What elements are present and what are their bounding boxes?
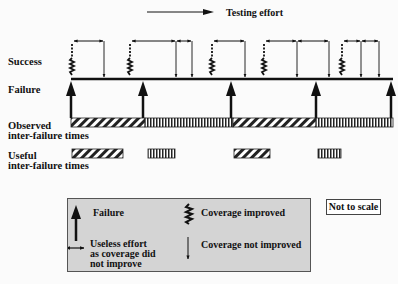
not-to-scale-note: Not to scale [326, 199, 381, 215]
coverage-improved-icon [340, 58, 344, 75]
observed-inter-failure-bar [233, 118, 316, 127]
failure-arrow-icon [386, 81, 396, 96]
observed-row-label-2: inter-failure times [8, 131, 89, 141]
testing-effort-arrow-icon [147, 9, 214, 15]
useful-inter-failure-bar [72, 149, 123, 158]
failure-arrow-icon [138, 81, 148, 96]
coverage-improved-icon [128, 58, 132, 75]
failure-arrow-icon [311, 81, 321, 96]
useful-row-label-2: inter-failure times [8, 161, 89, 171]
coverage-improved-icon [186, 204, 192, 224]
legend-coverage-not-improved-label: Coverage not improved [201, 240, 301, 250]
failure-arrow-icon [66, 81, 76, 96]
useful-inter-failure-bar [234, 149, 270, 158]
failure-row-label: Failure [8, 85, 40, 95]
observed-inter-failure-bar [145, 118, 233, 127]
coverage-improved-icon [210, 58, 214, 75]
observed-inter-failure-bar [71, 118, 145, 127]
useful-inter-failure-bar [148, 149, 175, 158]
success-row-label: Success [8, 57, 42, 67]
useful-inter-failure-bar [318, 149, 341, 158]
legend-coverage-improved-label: Coverage improved [201, 208, 285, 218]
coverage-improved-icon [262, 58, 266, 75]
observed-inter-failure-bar [316, 118, 393, 127]
testing-effort-label: Testing effort [226, 8, 283, 18]
legend-failure-label: Failure [93, 208, 124, 218]
legend-useless-line3: not improve [90, 259, 142, 269]
legend-box: Failure Coverage improved Useless effort… [67, 198, 311, 272]
failure-arrow-icon [226, 81, 236, 96]
failure-arrow-icon [71, 205, 81, 241]
coverage-improved-icon [70, 58, 74, 75]
